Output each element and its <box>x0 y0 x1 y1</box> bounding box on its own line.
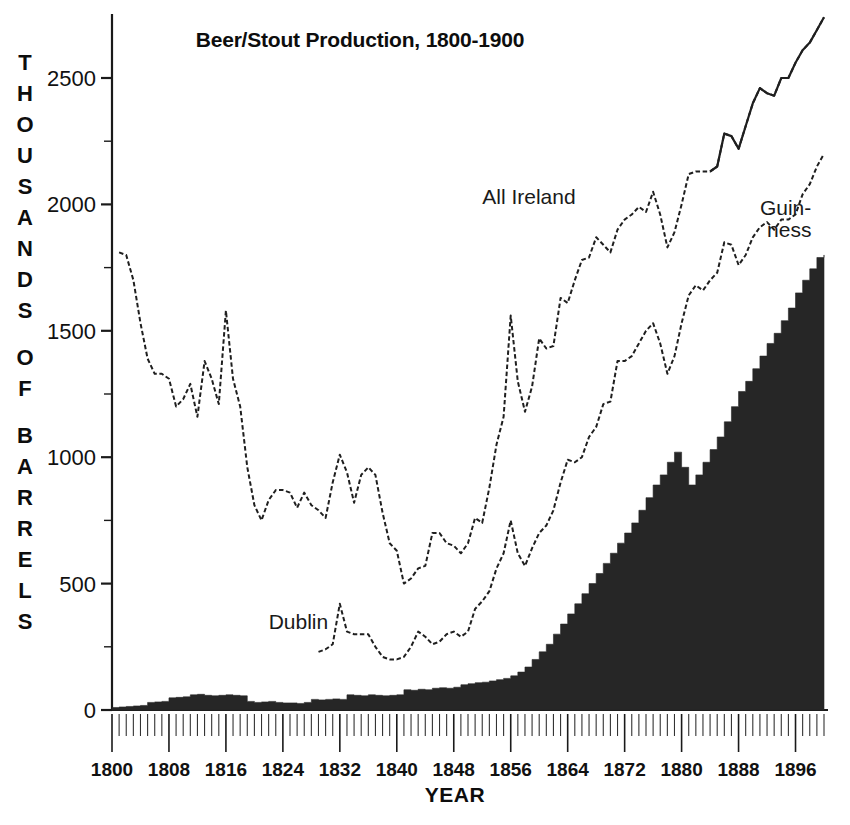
y-tick-label: 0 <box>84 698 96 723</box>
x-tick-label: 1808 <box>148 759 190 780</box>
series-all-ireland-line-solid <box>710 17 824 171</box>
x-tick-label: 1848 <box>433 759 475 780</box>
dublin-label: Dublin <box>269 610 329 633</box>
chart-root: Beer/Stout Production, 1800-1900 THOUSAN… <box>0 0 850 825</box>
y-tick-label: 1000 <box>47 445 96 470</box>
x-tick-label: 1896 <box>774 759 816 780</box>
x-tick-label: 1872 <box>603 759 645 780</box>
y-tick-label: 2500 <box>47 66 96 91</box>
guinness-label-line2: ness <box>767 218 811 241</box>
x-tick-label: 1840 <box>376 759 418 780</box>
x-tick-label: 1880 <box>660 759 702 780</box>
plot-area: 0500100015002000250018001808181618241832… <box>0 0 850 825</box>
series-guinness-area <box>112 255 824 710</box>
guinness-label-line1: Guin- <box>760 196 811 219</box>
x-tick-label: 1832 <box>319 759 361 780</box>
x-tick-label: 1824 <box>262 759 305 780</box>
x-tick-label: 1856 <box>490 759 532 780</box>
x-tick-label: 1888 <box>717 759 759 780</box>
x-tick-label: 1816 <box>205 759 247 780</box>
x-tick-label: 1864 <box>547 759 590 780</box>
series-layer <box>112 17 824 710</box>
x-tick-label: 1800 <box>91 759 133 780</box>
y-tick-label: 500 <box>59 572 96 597</box>
all-ireland-label: All Ireland <box>482 185 575 208</box>
y-tick-label: 1500 <box>47 319 96 344</box>
y-tick-label: 2000 <box>47 192 96 217</box>
